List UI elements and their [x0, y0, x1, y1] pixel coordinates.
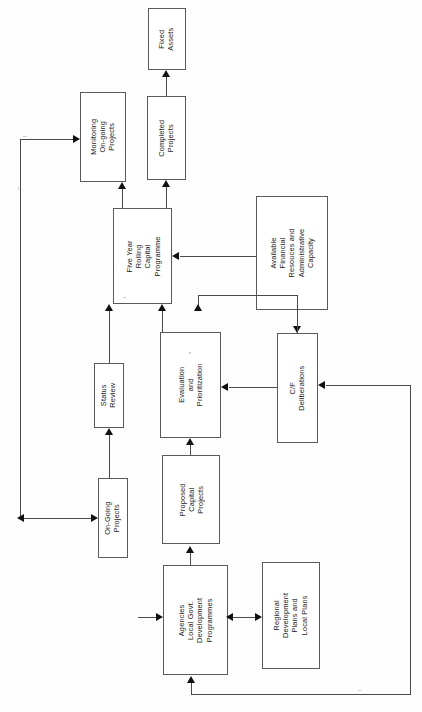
- edge-agencies-feedback-arrow: [187, 676, 195, 683]
- node-regional-plans[interactable]: Regional Development Plans and Local Pla…: [262, 562, 320, 669]
- edge-fiveyear-to-monitoring-line: [122, 188, 123, 208]
- edge-ongoing-to-status-arrow: [105, 428, 113, 435]
- node-cf-deliberations[interactable]: C/F Deliberations: [277, 333, 318, 443]
- edge-fiveyear-to-completed-line: [166, 186, 167, 208]
- node-evaluation[interactable]: Evaluation and Prioritization: [160, 332, 221, 438]
- flowchart-canvas: Fixed Assets Monitoring On-going Project…: [0, 0, 422, 712]
- node-regional-plans-label: Regional Development Plans and Local Pla…: [273, 593, 310, 638]
- edge-proposed-to-evaluation-line: [190, 444, 191, 455]
- node-fixed-assets[interactable]: Fixed Assets: [148, 8, 186, 70]
- edge-cf-to-evaluation-line: [229, 387, 277, 388]
- edge-evaluation-to-fiveyear-line: [162, 310, 163, 332]
- node-proposed-capital-label: Proposed Capital Projects: [177, 483, 205, 516]
- node-completed-projects[interactable]: Completed Projects: [147, 96, 186, 180]
- edge-right-rail: [410, 385, 411, 695]
- edge-leftrail-back-arrow: [17, 514, 24, 522]
- node-status-review-label: Status Review: [100, 383, 118, 408]
- edge-monitoring-feedback-top: [20, 139, 75, 140]
- edge-cf-to-evaluation-arrow: [221, 383, 228, 391]
- edge-agencies-to-proposed-arrow: [186, 546, 194, 553]
- edge-agencies-regional-arrow-left: [226, 613, 233, 621]
- edge-ongoing-to-status-line: [109, 434, 110, 478]
- edge-status-to-fiveyear-arrow: [105, 304, 113, 311]
- edge-cf-to-fiveyear-arrow: [194, 304, 202, 311]
- edge-leftrail-to-ongoing-arrow: [91, 514, 98, 522]
- edge-evaluation-to-fiveyear-arrow: [158, 304, 166, 311]
- node-status-review[interactable]: Status Review: [94, 363, 124, 428]
- edge-completed-to-fixed-line: [166, 76, 167, 96]
- scan-speck: [189, 352, 191, 354]
- scan-speck: [23, 136, 27, 137]
- edge-completed-to-fixed-arrow: [162, 70, 170, 77]
- edge-bottom-rail: [191, 694, 410, 695]
- edge-status-to-fiveyear-line: [109, 310, 110, 363]
- edge-left-into-agencies-line: [138, 617, 158, 618]
- edge-finance-to-fiveyear-arrow: [172, 252, 179, 260]
- scan-speck: [123, 297, 126, 298]
- node-cf-deliberations-label: C/F Deliberations: [288, 365, 306, 410]
- node-monitoring-label: Monitoring On-going Projects: [89, 119, 117, 155]
- node-on-going-projects-label: On-Going Projects: [104, 501, 122, 534]
- node-five-year-label: Five Year Rolling Capital Programme: [124, 236, 161, 276]
- edge-finance-to-fiveyear-line: [180, 256, 256, 257]
- edge-monitoring-feedback-arrow: [73, 135, 80, 143]
- node-available-finance-label: Available Financial Resouces and Adminis…: [269, 228, 315, 277]
- node-available-finance[interactable]: Available Financial Resouces and Adminis…: [256, 196, 328, 310]
- node-agencies-label: Agencies Local Govt. Development Program…: [177, 597, 214, 642]
- edge-leftrail-to-ongoing-line: [24, 518, 93, 519]
- edge-monitoring-feedback-rail: [20, 139, 21, 518]
- edge-proposed-to-evaluation-arrow: [186, 438, 194, 445]
- edge-agencies-regional-arrow-right: [255, 613, 262, 621]
- edge-cf-to-fiveyear-hline: [198, 295, 298, 296]
- edge-fiveyear-to-completed-arrow: [162, 180, 170, 187]
- edge-cf-to-fiveyear-vline: [297, 295, 298, 333]
- node-proposed-capital[interactable]: Proposed Capital Projects: [162, 455, 220, 544]
- scan-speck: [18, 187, 19, 190]
- edge-rightrail-to-cf-arrow: [318, 381, 325, 389]
- node-fixed-assets-label: Fixed Assets: [158, 27, 176, 50]
- edge-fiveyear-to-monitoring-arrow: [118, 182, 126, 189]
- node-monitoring[interactable]: Monitoring On-going Projects: [80, 92, 126, 182]
- edge-left-into-agencies-arrow: [156, 613, 163, 621]
- node-evaluation-label: Evaluation and Prioritization: [177, 364, 205, 407]
- node-five-year[interactable]: Five Year Rolling Capital Programme: [113, 208, 172, 304]
- edge-rightrail-to-cf-line: [326, 385, 411, 386]
- node-completed-projects-label: Completed Projects: [157, 119, 175, 156]
- edge-agencies-to-proposed-line: [190, 552, 191, 565]
- node-agencies[interactable]: Agencies Local Govt. Development Program…: [163, 565, 228, 675]
- node-on-going-projects[interactable]: On-Going Projects: [98, 478, 128, 558]
- scan-speck: [358, 690, 361, 691]
